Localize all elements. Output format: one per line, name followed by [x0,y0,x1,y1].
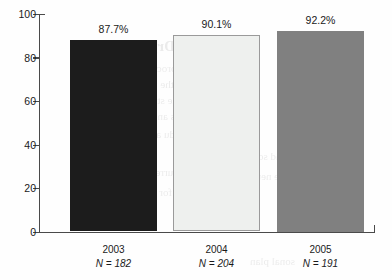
bar-2003[interactable] [70,40,157,231]
x-group-2004: 2004 N = 204 [173,243,260,270]
bar-value-2005: 92.2% [277,15,364,26]
x-group-sample-size: N = 191 [277,257,364,271]
y-tick-label-100: 100 [0,9,36,20]
x-group-2003: 2003 N = 182 [70,243,157,270]
y-tick-label-40: 40 [0,140,36,151]
y-tick-label-80: 80 [0,53,36,64]
x-group-sample-size: N = 204 [173,257,260,271]
bar-2005[interactable] [277,31,364,232]
x-group-year: 2005 [277,243,364,257]
x-axis-right-cap [374,225,376,233]
y-tick-label-0: 0 [0,227,36,238]
bar-value-2003: 87.7% [70,24,157,35]
x-group-year: 2004 [173,243,260,257]
x-group-2005: 2005 N = 191 [277,243,364,270]
y-tick-label-60: 60 [0,96,36,107]
x-axis-line [39,232,375,234]
plot-area: 100 80 60 40 20 0 87.7% 90.1% 92.2% 2003… [0,0,392,280]
x-group-sample-size: N = 182 [70,257,157,271]
bar-chart-figure: Failing Dry cases to proce nger it the p… [0,0,392,280]
y-axis-line [39,14,40,233]
y-axis-top-cap [39,14,45,15]
bar-value-2004: 90.1% [173,19,260,30]
x-group-year: 2003 [70,243,157,257]
bar-2004[interactable] [173,35,260,231]
y-tick-label-20: 20 [0,183,36,194]
